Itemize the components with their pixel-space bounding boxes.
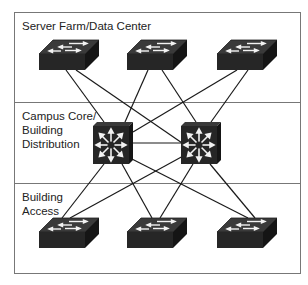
section-label-line: Access	[22, 204, 63, 218]
section-label-building-access: Building Access	[22, 190, 63, 218]
section-label-campus-core: Campus Core/ Building Distribution	[22, 109, 96, 151]
section-label-line: Building	[22, 123, 96, 137]
section-label-server-farm: Server Farm/Data Center	[22, 19, 151, 33]
core-multilayer-switch-2-icon	[181, 122, 221, 164]
section-label-line: Building	[22, 190, 63, 204]
core-multilayer-switch-1-icon	[93, 122, 133, 164]
section-label-line: Campus Core/	[22, 109, 96, 123]
section-label-line: Distribution	[22, 137, 96, 151]
